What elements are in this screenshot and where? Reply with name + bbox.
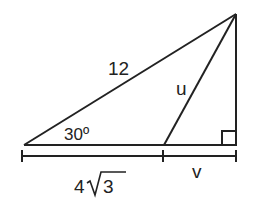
inner-segment-line [164,14,236,145]
right-angle-marker [222,131,236,145]
triangle-diagram: 12 u 30º v 4 3 [0,0,259,208]
base-left-radicand: 3 [103,176,114,197]
hypotenuse-line [24,14,236,145]
hypotenuse-label: 12 [108,58,129,79]
inner-segment-label: u [176,78,187,99]
base-right-label: v [192,161,202,182]
angle-label: 30º [64,125,89,144]
base-left-label: 4 3 [74,172,126,197]
base-left-coefficient: 4 [74,176,85,197]
